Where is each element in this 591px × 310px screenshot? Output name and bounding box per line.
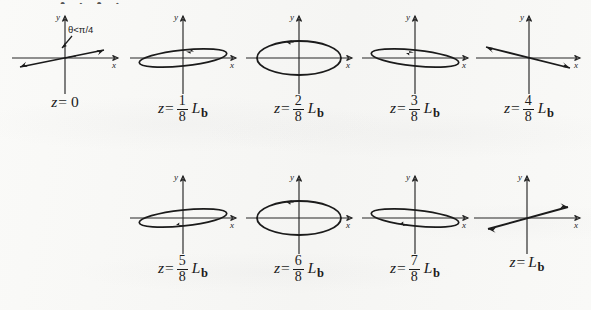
panel-label-z-6-8: z=68Lb [240, 254, 358, 284]
panel-label-z-0: z= 0 [6, 94, 124, 110]
panel-z-6-8: y x z=68Lb [240, 166, 358, 294]
label-equals: = [396, 99, 407, 116]
y-axis-label: y [405, 12, 410, 22]
label-subscript: b [433, 106, 440, 120]
label-fraction: 48 [523, 94, 534, 124]
x-axis-label: x [229, 60, 234, 70]
y-axis-label: y [289, 12, 294, 22]
y-axis-label: y [173, 12, 178, 22]
label-fraction: 38 [409, 94, 420, 124]
x-axis-label: x [461, 60, 466, 70]
label-L-symbol: L [192, 259, 201, 276]
fraction-denominator: 8 [523, 110, 534, 125]
label-equals: = [280, 259, 291, 276]
panel-label-z-Lb: z=Lb [468, 254, 586, 273]
ellipse-direction-arrow [406, 51, 414, 56]
fraction-denominator: 8 [293, 270, 304, 285]
y-axis-label: y [517, 172, 522, 182]
x-axis-label: x [345, 60, 350, 70]
x-axis-label: x [461, 220, 466, 230]
plot-z-3-8: y x [356, 6, 474, 98]
panel-z-1-8: y x z=18Lb [124, 6, 242, 134]
y-axis-label: y [519, 12, 524, 22]
label-equals: = [396, 259, 407, 276]
label-subscript: b [547, 106, 554, 120]
label-L-symbol: L [424, 99, 433, 116]
label-fraction: 58 [177, 254, 188, 284]
label-subscript: b [201, 106, 208, 120]
panel-z-7-8: y x z=78Lb [356, 166, 474, 294]
label-L-symbol: L [308, 259, 317, 276]
polarization-line-arrow-left [486, 47, 494, 53]
y-axis-label: y [289, 172, 294, 182]
polarization-figure: • ∙ • ∙ y x θ<π/4 z= 0 y [0, 0, 591, 310]
label-equals: = [280, 99, 291, 116]
plot-z-7-8: y x [356, 166, 474, 258]
label-subscript: b [433, 266, 440, 280]
label-subscript: b [201, 266, 208, 280]
panel-z-5-8: y x z=58Lb [124, 166, 242, 294]
label-fraction: 78 [409, 254, 420, 284]
panel-z-Lb: y x z=Lb [468, 166, 586, 294]
label-L-symbol: L [538, 99, 547, 116]
label-L-symbol: L [308, 99, 317, 116]
label-subscript: b [317, 266, 324, 280]
label-value: 0 [71, 93, 79, 110]
y-axis-label: y [405, 172, 410, 182]
panel-z-3-8: y x z=38Lb [356, 6, 474, 134]
plot-z-6-8: y x [240, 166, 358, 258]
cut-off-header-text: • ∙ • ∙ [60, 0, 124, 4]
fraction-denominator: 8 [177, 270, 188, 285]
label-L-symbol: L [528, 253, 537, 270]
polarization-line-arrow-left [20, 62, 28, 67]
plot-z-2-8: y x [240, 6, 358, 98]
label-L-symbol: L [192, 99, 201, 116]
panel-label-z-4-8: z=48Lb [470, 94, 588, 124]
y-axis-label: y [173, 172, 178, 182]
label-equals: = [164, 259, 175, 276]
plot-z-5-8: y x [124, 166, 242, 258]
label-fraction: 68 [293, 254, 304, 284]
label-lhs: z [510, 253, 516, 270]
fraction-denominator: 8 [177, 110, 188, 125]
polarization-line-arrow-right [562, 62, 570, 68]
label-fraction: 28 [293, 94, 304, 124]
fraction-numerator: 2 [293, 94, 304, 110]
panel-label-z-2-8: z=28Lb [240, 94, 358, 124]
fraction-numerator: 5 [177, 254, 188, 270]
x-axis-label: x [573, 220, 578, 230]
label-equals: = [510, 99, 521, 116]
panel-label-z-5-8: z=58Lb [124, 254, 242, 284]
panel-label-z-7-8: z=78Lb [356, 254, 474, 284]
x-axis-label: x [345, 220, 350, 230]
fraction-denominator: 8 [293, 110, 304, 125]
label-equals: = [516, 253, 527, 270]
plot-z-4-8: y x [470, 6, 588, 98]
label-L-symbol: L [424, 259, 433, 276]
panel-z-4-8: y x z=48Lb [470, 6, 588, 134]
label-subscript: b [317, 106, 324, 120]
x-axis-label: x [573, 60, 578, 70]
polarization-line-arrow-right [96, 50, 104, 55]
fraction-numerator: 1 [177, 94, 188, 110]
plot-z-1-8: y x [124, 6, 242, 98]
panel-z-2-8: y x z=28Lb [240, 6, 358, 134]
panel-label-z-3-8: z=38Lb [356, 94, 474, 124]
fraction-numerator: 6 [293, 254, 304, 270]
panel-label-z-1-8: z=18Lb [124, 94, 242, 124]
fraction-denominator: 8 [409, 270, 420, 285]
fraction-denominator: 8 [409, 110, 420, 125]
y-axis-label: y [55, 12, 60, 22]
fraction-numerator: 7 [409, 254, 420, 270]
label-fraction: 18 [177, 94, 188, 124]
label-equals: = [57, 93, 68, 110]
label-subscript: b [537, 260, 544, 274]
fraction-numerator: 4 [523, 94, 534, 110]
panel-z-0: y x θ<π/4 z= 0 [6, 6, 124, 134]
x-axis-label: x [111, 60, 116, 70]
x-axis-label: x [229, 220, 234, 230]
theta-annotation: θ<π/4 [68, 24, 93, 35]
label-equals: = [164, 99, 175, 116]
plot-z-Lb: y x [468, 166, 586, 258]
fraction-numerator: 3 [409, 94, 420, 110]
